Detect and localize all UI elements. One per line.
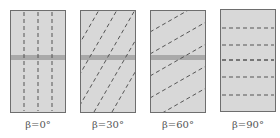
label-beta-60: β=60° xyxy=(143,119,213,130)
specimen-90-deg xyxy=(220,9,276,112)
panel-beta-0 xyxy=(10,10,66,113)
specimen-0-deg xyxy=(10,10,66,113)
label-beta-0: β=0° xyxy=(3,119,73,130)
specimen-30-deg xyxy=(80,10,136,113)
specimen-60-deg xyxy=(150,10,206,113)
label-beta-30: β=30° xyxy=(73,119,143,130)
panel-beta-90 xyxy=(220,9,276,112)
label-beta-90: β=90° xyxy=(213,119,280,130)
panel-beta-30 xyxy=(80,10,136,113)
panel-beta-60 xyxy=(150,10,206,113)
